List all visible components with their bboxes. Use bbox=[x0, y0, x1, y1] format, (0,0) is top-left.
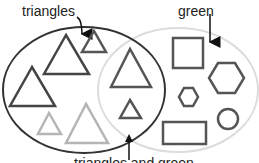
hexagon-small-icon bbox=[179, 88, 198, 106]
triangles-set-ellipse bbox=[3, 27, 165, 153]
venn-diagram bbox=[0, 0, 259, 163]
triangle-large-dark-icon bbox=[44, 35, 89, 74]
arrow-triangles-icon bbox=[77, 17, 82, 34]
hexagon-large-icon bbox=[209, 63, 244, 93]
square-icon bbox=[173, 38, 203, 68]
green-set-ellipse bbox=[98, 28, 258, 152]
rectangle-icon bbox=[163, 122, 206, 144]
triangle-small-green-icon bbox=[120, 100, 141, 118]
triangle-small-dark-icon bbox=[82, 31, 106, 52]
triangle-large-green-icon bbox=[111, 49, 151, 87]
triangle-small-light-icon bbox=[38, 113, 61, 134]
circle-icon bbox=[218, 109, 238, 129]
